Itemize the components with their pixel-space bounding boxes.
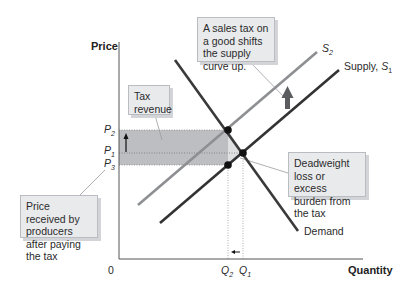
q2-label: Q2	[221, 264, 233, 278]
origin-label: 0	[108, 264, 114, 276]
sales-tax-callout: A sales tax on a good shifts the supply …	[197, 17, 275, 62]
y-axis-title: Price	[91, 40, 118, 52]
price-received-callout: Price received by producers after paying…	[20, 195, 98, 238]
tax-revenue-callout: Tax revenue	[128, 85, 170, 115]
quantity-decrease-arrow-icon	[231, 250, 240, 254]
q1-label: Q1	[239, 264, 251, 278]
supply-shift-up-arrow-icon	[282, 86, 294, 109]
price-received-leader	[80, 170, 105, 195]
x-axis-title: Quantity	[348, 264, 393, 276]
equilibrium-p2-q2	[224, 126, 232, 134]
demand-label: Demand	[304, 225, 344, 237]
p2-label: P2	[104, 123, 115, 137]
point-p3-q2	[224, 161, 232, 169]
deadweight-loss-callout: Deadweight loss or excess burden from th…	[288, 152, 366, 197]
p1-label: P1	[104, 144, 115, 158]
s1-label: Supply, S1	[344, 60, 392, 74]
p3-label: P3	[104, 157, 115, 171]
tax-revenue-area	[119, 130, 228, 165]
s2-label: S2	[322, 42, 333, 56]
equilibrium-p1-q1	[239, 149, 247, 157]
